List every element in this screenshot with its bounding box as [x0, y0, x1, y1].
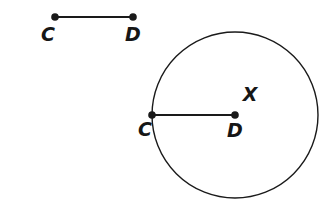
- point-d-top: [129, 13, 137, 21]
- label-c-on-circle: C: [138, 118, 152, 140]
- geometry-diagram: C D C D X: [0, 0, 335, 217]
- label-d-top: D: [125, 23, 141, 45]
- point-c-top: [51, 13, 59, 21]
- geometry-canvas: C D C D X: [0, 0, 335, 217]
- label-x-circle-name: X: [242, 83, 259, 105]
- label-c-top: C: [41, 23, 55, 45]
- circle-x-group: C D X: [138, 32, 318, 198]
- label-d-center: D: [227, 119, 243, 141]
- segment-cd-group: C D: [41, 13, 141, 45]
- point-d-center: [231, 111, 239, 119]
